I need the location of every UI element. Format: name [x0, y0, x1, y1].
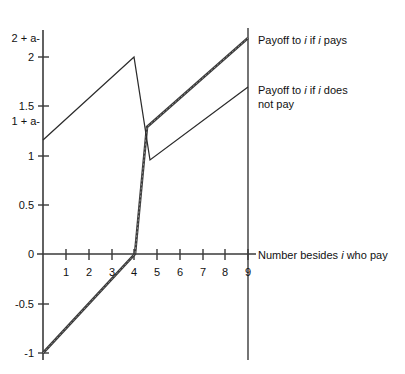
x-tick-label-1: 1	[56, 266, 76, 278]
x-tick-label-3: 3	[102, 266, 122, 278]
annotation-pays-post: pays	[321, 34, 347, 46]
y-tick-label-0p5: 0.5	[0, 199, 34, 211]
y-tick-label-neg0p5: -0.5	[0, 298, 34, 310]
y-label-2-plus-a: 2 + a-	[0, 32, 40, 44]
y-label-1-plus-a: 1 + a-	[0, 115, 40, 127]
y-tick-label-1: 1	[0, 150, 34, 162]
annotation-not-pay-pre: Payoff to	[258, 84, 304, 96]
annotation-pays-pre: Payoff to	[258, 34, 304, 46]
annotation-pays: Payoff to i if i pays	[258, 33, 347, 47]
annotation-not-pay: Payoff to i if i doesnot pay	[258, 83, 348, 111]
annotation-not-pay-line2: not pay	[258, 98, 294, 110]
x-axis-title-pre: Number besides	[258, 249, 341, 261]
series-pays-line	[43, 38, 248, 353]
y-tick-label-1p5: 1.5	[0, 100, 34, 112]
x-tick-label-5: 5	[147, 266, 167, 278]
annotation-pays-mid: if	[307, 34, 319, 46]
x-tick-label-8: 8	[215, 266, 235, 278]
x-axis-title-post: who pay	[344, 249, 388, 261]
annotation-not-pay-post: does	[321, 84, 348, 96]
x-tick-label-7: 7	[193, 266, 213, 278]
y-tick-label-neg1: -1	[0, 347, 34, 359]
y-tick-label-0: 0	[0, 248, 34, 260]
chart-figure: 2 + a- 1 + a- 2 1.5 1 0.5 0 -0.5 -1 1 2 …	[0, 0, 405, 374]
x-tick-label-6: 6	[170, 266, 190, 278]
series-pays-line-texture	[43, 38, 248, 353]
x-axis-title: Number besides i who pay	[258, 248, 388, 262]
x-tick-label-9: 9	[238, 266, 258, 278]
x-tick-label-4: 4	[124, 266, 144, 278]
annotation-not-pay-mid: if	[307, 84, 319, 96]
payoff-line-chart	[0, 0, 405, 374]
x-tick-label-2: 2	[79, 266, 99, 278]
y-tick-label-2: 2	[0, 51, 34, 63]
